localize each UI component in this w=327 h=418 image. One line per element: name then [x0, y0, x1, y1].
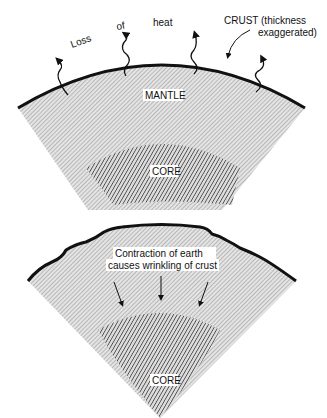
caption-line2: causes wrinkling of crust — [108, 260, 217, 271]
crust-pointer-arrow-icon — [228, 30, 250, 56]
earth-cross-section-diagram: Loss of heat CRUST (thickness exaggerate… — [0, 0, 327, 418]
heat-word-heat: heat — [153, 17, 173, 28]
heat-word-of: of — [115, 20, 125, 32]
core-label-bottom: CORE — [152, 375, 181, 386]
core-label-top: CORE — [152, 166, 181, 177]
crust-label-line2: exaggerated) — [258, 27, 317, 38]
heat-word-loss: Loss — [69, 32, 93, 50]
mantle-label: MANTLE — [145, 90, 186, 101]
caption-line1: Contraction of earth — [115, 248, 203, 259]
crust-label-line1: CRUST (thickness — [224, 15, 306, 26]
top-panel: Loss of heat CRUST (thickness exaggerate… — [18, 15, 317, 210]
bottom-panel: Contraction of earth causes wrinkling of… — [28, 225, 296, 418]
